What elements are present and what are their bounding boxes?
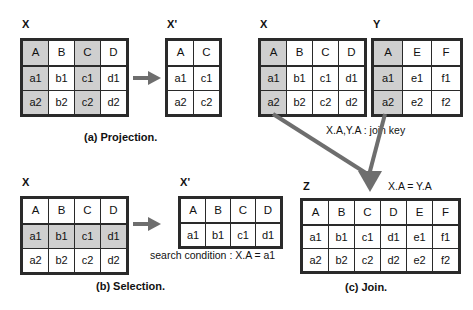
column-header: E — [407, 201, 433, 226]
table-cell: e2 — [407, 249, 433, 272]
column-header: A — [181, 199, 206, 224]
table-cell: c1 — [231, 223, 256, 247]
column-header: B — [49, 199, 75, 225]
caption-selection: (b) Selection. — [96, 280, 165, 292]
table-cell: b1 — [206, 223, 231, 247]
relation-x: ABCDa1b1c1d1a2b2c2d2 — [22, 198, 127, 273]
column-header: D — [256, 199, 281, 224]
table-x-selection: ABCDa1b1c1d1a2b2c2d2 — [20, 196, 129, 275]
column-header: B — [329, 201, 355, 226]
column-header: C — [75, 199, 101, 225]
column-header: C — [355, 201, 381, 226]
table-cell: c2 — [355, 249, 381, 272]
table-cell: a2 — [303, 249, 329, 272]
table-cell: d1 — [256, 223, 281, 247]
table-cell: c2 — [75, 249, 101, 273]
table-cell: c1 — [75, 224, 101, 249]
relation-label-z-join: Z — [303, 180, 310, 192]
relation-z: ABCDEFa1b1c1d1e1f1a2b2c2d2e2f2 — [302, 200, 459, 272]
table-cell: b1 — [49, 224, 75, 249]
table-cell: d2 — [381, 249, 407, 272]
column-header: A — [23, 199, 49, 225]
column-header: A — [303, 201, 329, 226]
table-cell: c1 — [355, 225, 381, 249]
column-header: D — [101, 199, 127, 225]
table-row: a1b1c1d1 — [181, 223, 281, 247]
table-cell: d2 — [101, 249, 127, 273]
table-row: a2b2c2d2e2f2 — [303, 249, 459, 272]
table-cell: f1 — [433, 225, 459, 249]
relation-label-x-selection: X — [22, 176, 30, 188]
table-row: a1b1c1d1e1f1 — [303, 225, 459, 249]
relation-xprime: ABCDa1b1c1d1 — [180, 198, 281, 247]
table-cell: d1 — [101, 224, 127, 249]
table-cell: a1 — [181, 223, 206, 247]
table-row: a1b1c1d1 — [23, 224, 127, 249]
table-header-row: ABCDEF — [303, 201, 459, 226]
table-cell: b2 — [329, 249, 355, 272]
column-header: F — [433, 201, 459, 226]
table-cell: f2 — [433, 249, 459, 272]
table-header-row: ABCD — [181, 199, 281, 224]
table-header-row: ABCD — [23, 199, 127, 225]
table-row: a2b2c2d2 — [23, 249, 127, 273]
table-cell: b2 — [49, 249, 75, 273]
relation-label-xprime-selection: X' — [180, 176, 190, 188]
table-cell: b1 — [329, 225, 355, 249]
table-cell: a1 — [303, 225, 329, 249]
table-cell: d1 — [381, 225, 407, 249]
table-cell: a1 — [23, 224, 49, 249]
search-condition-note: search condition : X.A = a1 — [150, 249, 275, 261]
figure-canvas: X ABCDa1b1c1d1a2b2c2d2 X' ACa1c1a2c2 (a)… — [0, 0, 473, 310]
table-z-join: ABCDEFa1b1c1d1e1f1a2b2c2d2e2f2 — [300, 198, 461, 274]
table-cell: e1 — [407, 225, 433, 249]
table-cell: a2 — [23, 249, 49, 273]
caption-join: (c) Join. — [345, 281, 387, 293]
column-header: D — [381, 201, 407, 226]
join-condition-note: X.A = Y.A — [388, 180, 432, 192]
column-header: B — [206, 199, 231, 224]
column-header: C — [231, 199, 256, 224]
table-xprime-selection: ABCDa1b1c1d1 — [178, 196, 283, 249]
